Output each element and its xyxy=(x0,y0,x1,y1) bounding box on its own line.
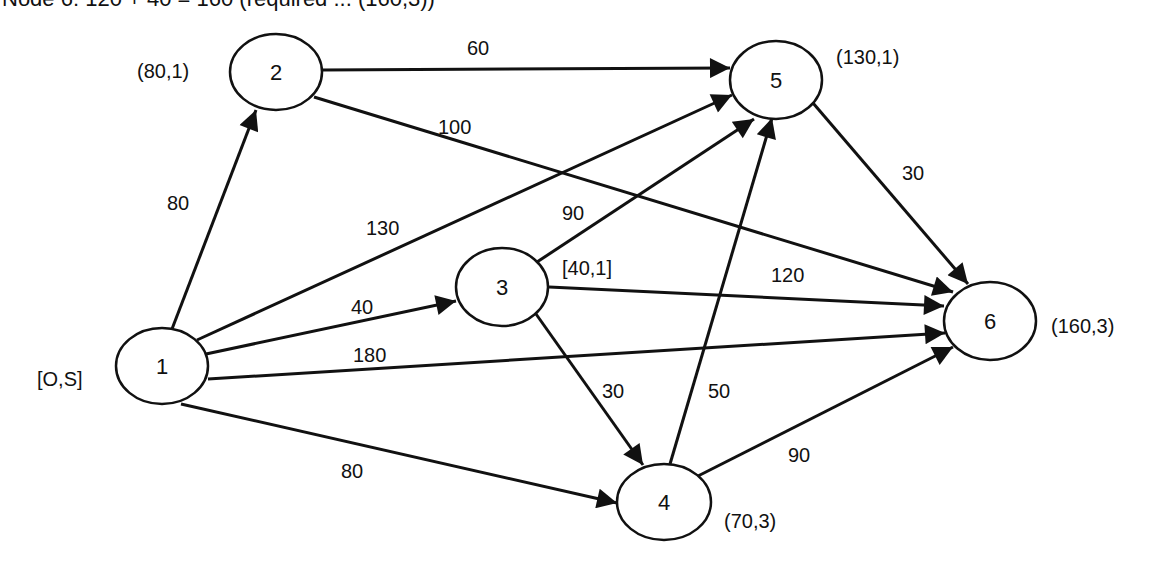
node-6-annotation: (160,3) xyxy=(1051,315,1114,337)
edge-1-2-weight: 80 xyxy=(167,192,189,214)
node-1-label: 1 xyxy=(156,354,168,379)
edge-1-3 xyxy=(206,301,456,354)
edge-1-5-weight: 130 xyxy=(366,217,399,239)
edge-3-4 xyxy=(536,314,643,465)
node-2-annotation: (80,1) xyxy=(137,60,189,82)
node-3-annotation: [40,1] xyxy=(562,257,612,279)
edge-3-6 xyxy=(549,287,944,306)
edge-1-2 xyxy=(172,110,256,329)
edge-3-4-weight: 30 xyxy=(602,380,624,402)
edge-1-4-weight: 80 xyxy=(341,460,363,482)
edge-2-6 xyxy=(314,97,953,292)
node-2-label: 2 xyxy=(270,60,282,85)
edge-5-6-weight: 30 xyxy=(902,162,924,184)
node-3-label: 3 xyxy=(496,275,508,300)
node-1-annotation: [O,S] xyxy=(37,368,83,390)
edge-4-5 xyxy=(670,118,772,464)
edge-3-5-weight: 90 xyxy=(562,202,584,224)
edge-2-5-weight: 60 xyxy=(467,37,489,59)
edge-1-6-weight: 180 xyxy=(353,344,386,366)
edge-2-5 xyxy=(322,68,730,70)
node-5-label: 5 xyxy=(770,68,782,93)
node-5-annotation: (130,1) xyxy=(836,46,899,68)
edge-4-6-weight: 90 xyxy=(788,444,810,466)
network-diagram: 1 2 3 4 5 6 [O,S] (80,1) [40,1] (70,3) (… xyxy=(0,0,1161,566)
edge-1-4 xyxy=(181,404,617,503)
edge-4-5-weight: 50 xyxy=(708,380,730,402)
edge-3-6-weight: 120 xyxy=(771,264,804,286)
node-4-annotation: (70,3) xyxy=(724,510,776,532)
edge-4-6 xyxy=(698,347,953,476)
node-6-label: 6 xyxy=(984,309,996,334)
edge-1-3-weight: 40 xyxy=(351,296,373,318)
node-4-label: 4 xyxy=(658,490,670,515)
edge-2-6-weight: 100 xyxy=(438,116,471,138)
edge-3-5 xyxy=(537,119,754,262)
